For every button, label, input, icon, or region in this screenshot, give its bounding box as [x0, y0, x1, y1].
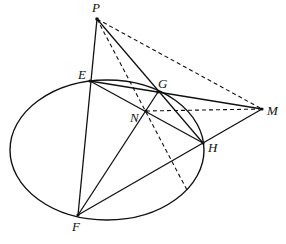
point-F: [76, 213, 79, 216]
label-H: H: [207, 140, 218, 155]
segment-PF: [78, 19, 97, 215]
point-H: [201, 141, 204, 144]
label-M: M: [266, 103, 279, 118]
segment-PQ-dashed: [97, 19, 188, 192]
point-P: [95, 17, 99, 21]
label-P: P: [91, 0, 100, 15]
label-G: G: [158, 76, 168, 91]
label-E: E: [77, 67, 86, 82]
label-N: N: [129, 110, 140, 125]
point-N: [144, 109, 147, 112]
geometry-diagram: P E G N M H F: [0, 0, 286, 244]
label-F: F: [71, 219, 81, 234]
segment-NM-dashed: [146, 109, 262, 111]
point-M: [260, 107, 263, 110]
segment-PH: [97, 19, 203, 143]
point-E: [88, 79, 91, 82]
